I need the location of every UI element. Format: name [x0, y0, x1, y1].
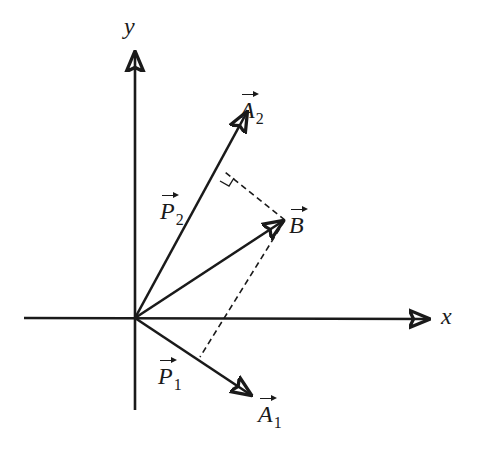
- vector-p1-label: P1: [158, 364, 182, 388]
- x-axis: [24, 318, 429, 319]
- vector-a2-arrow: [135, 112, 247, 318]
- vector-diagram: [0, 0, 482, 452]
- vector-a2-subscript: 2: [256, 110, 264, 127]
- vector-p1-symbol: P: [158, 364, 173, 388]
- projection-line-to-a1: [200, 220, 285, 357]
- vector-b-symbol: B: [289, 213, 304, 237]
- vector-a1-symbol: A: [258, 402, 273, 426]
- vector-b-label: B: [289, 213, 304, 237]
- vector-p2-label: P2: [160, 199, 184, 223]
- vector-p2-symbol: P: [160, 199, 175, 223]
- vector-a1-label: A1: [258, 402, 282, 426]
- vector-p1-subscript: 1: [174, 376, 182, 393]
- vector-b-arrow: [135, 221, 283, 318]
- vector-a2-label: A2: [240, 98, 264, 122]
- vector-a2-symbol: A: [240, 98, 255, 122]
- vector-a1-arrow: [135, 318, 251, 395]
- x-axis-label: x: [441, 304, 452, 328]
- right-angle-marker: [220, 178, 234, 186]
- vector-p2-subscript: 2: [176, 211, 184, 228]
- y-axis-label: y: [124, 14, 135, 38]
- vector-a1-subscript: 1: [274, 414, 282, 431]
